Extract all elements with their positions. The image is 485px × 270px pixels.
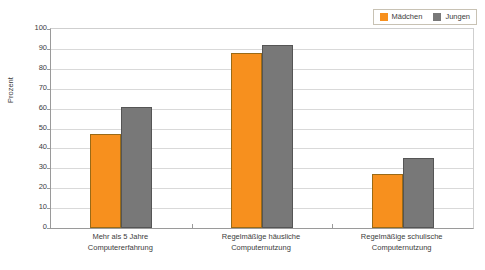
bar-jungen-1 [121, 107, 152, 228]
y-axis-tick-100: 100 [20, 24, 47, 32]
x-category-label-2-line-2: Computernutzung [191, 242, 332, 253]
plot-area [50, 28, 474, 229]
bar-group-2 [192, 29, 333, 228]
bar-mdchen-1 [90, 134, 121, 228]
y-axis-tick-40: 40 [20, 144, 47, 152]
x-category-label-3-line-1: Regelmäßige schulische [361, 232, 443, 241]
category-separator-tick [332, 224, 333, 228]
bar-jungen-3 [403, 158, 434, 228]
bars-container [51, 29, 192, 228]
category-separator-tick [192, 224, 193, 228]
bar-group-3 [332, 29, 473, 228]
y-axis-title: Prozent [6, 91, 15, 103]
x-axis-category-labels: Mehr als 5 JahreComputererfahrungRegelmä… [50, 231, 472, 253]
y-axis-tick-0: 0 [20, 223, 47, 231]
x-category-label-3-line-2: Computernutzung [331, 242, 472, 253]
y-axis-tick-60: 60 [20, 104, 47, 112]
y-axis-tick-10: 10 [20, 203, 47, 211]
x-category-label-2: Regelmäßige häuslicheComputernutzung [191, 231, 332, 253]
x-category-label-3: Regelmäßige schulischeComputernutzung [331, 231, 472, 253]
y-axis-tick-90: 90 [20, 44, 47, 52]
y-axis-tick-30: 30 [20, 164, 47, 172]
bar-mdchen-3 [372, 174, 403, 228]
bar-group-1 [51, 29, 192, 228]
x-category-label-1: Mehr als 5 JahreComputererfahrung [50, 231, 191, 253]
y-axis-tick-80: 80 [20, 64, 47, 72]
y-axis-tick-50: 50 [20, 124, 47, 132]
y-tickmark-0 [47, 228, 51, 229]
y-axis-tick-70: 70 [20, 84, 47, 92]
bar-jungen-2 [262, 45, 293, 228]
bars-container [332, 29, 473, 228]
bar-mdchen-2 [231, 53, 262, 228]
bars-container [192, 29, 333, 228]
bar-groups [51, 29, 473, 228]
x-category-label-2-line-1: Regelmäßige häusliche [222, 232, 300, 241]
bar-chart: Mädchen Jungen Prozent 10090807060504030… [0, 0, 485, 270]
y-axis-tick-20: 20 [20, 183, 47, 191]
plot-wrapper: Prozent 1009080706050403020100 Mehr als … [0, 0, 485, 270]
x-category-label-1-line-2: Computererfahrung [50, 242, 191, 253]
y-axis-tick-labels: 1009080706050403020100 [20, 24, 47, 227]
x-category-label-1-line-1: Mehr als 5 Jahre [92, 232, 148, 241]
